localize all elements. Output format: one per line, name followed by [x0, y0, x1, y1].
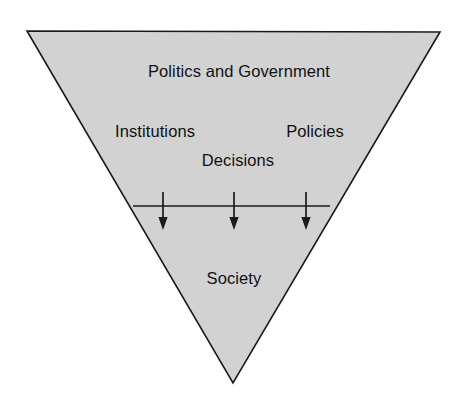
diagram-graphics — [0, 0, 458, 396]
label-policies: Policies — [286, 122, 344, 140]
label-institutions: Institutions — [115, 122, 195, 140]
label-politics-and-government: Politics and Government — [148, 62, 330, 80]
label-decisions: Decisions — [202, 151, 274, 169]
diagram-canvas: Politics and Government Institutions Pol… — [0, 0, 458, 396]
label-society: Society — [207, 269, 262, 287]
